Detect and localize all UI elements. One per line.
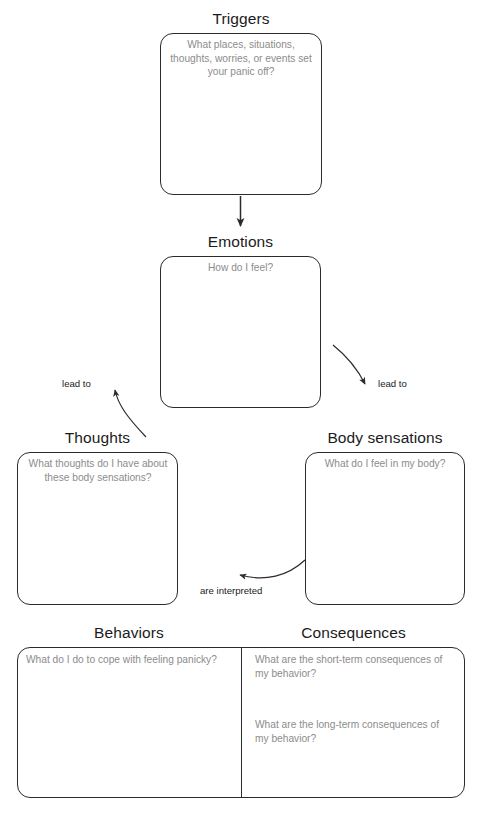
- label-lead-to-body-sensations: lead to: [378, 378, 407, 389]
- behaviors-cell[interactable]: [18, 648, 241, 797]
- panic-cycle-worksheet: Triggers What places, situations, though…: [0, 0, 483, 818]
- thoughts-placeholder: What thoughts do I have about these body…: [24, 457, 172, 484]
- body-sensations-title: Body sensations: [305, 429, 465, 447]
- body-sensations-box[interactable]: [305, 452, 465, 605]
- emotions-placeholder: How do I feel?: [170, 261, 311, 275]
- consequences-short-term-placeholder: What are the short-term consequences of …: [255, 653, 455, 680]
- triggers-placeholder: What places, situations, thoughts, worri…: [170, 38, 312, 79]
- triggers-title: Triggers: [160, 10, 322, 28]
- thoughts-title: Thoughts: [17, 429, 178, 447]
- emotions-title: Emotions: [160, 233, 321, 251]
- label-are-interpreted: are interpreted: [200, 585, 262, 596]
- behaviors-placeholder: What do I do to cope with feeling panick…: [26, 653, 236, 667]
- consequences-title: Consequences: [242, 624, 465, 642]
- connector-emotions-to-body-sensations: [333, 345, 365, 384]
- connector-body-sensations-to-thoughts: [240, 560, 305, 578]
- consequences-long-term-placeholder: What are the long-term consequences of m…: [255, 718, 455, 745]
- emotions-box[interactable]: [160, 256, 321, 408]
- behaviors-title: Behaviors: [17, 624, 241, 642]
- body-sensations-placeholder: What do I feel in my body?: [312, 457, 458, 471]
- label-lead-to-thoughts: lead to: [62, 378, 91, 389]
